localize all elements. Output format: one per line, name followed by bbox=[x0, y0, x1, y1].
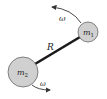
rod-label: R bbox=[46, 42, 54, 52]
rotating-dumbbell-diagram: R m1 m2 ω ω bbox=[0, 0, 107, 99]
angular-velocity-arrow-top bbox=[52, 7, 81, 23]
omega-label-top: ω bbox=[59, 14, 66, 23]
rod bbox=[35, 37, 80, 64]
omega-label-bottom: ω bbox=[40, 80, 46, 88]
